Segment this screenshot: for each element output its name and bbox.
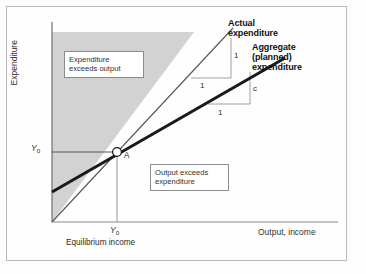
callout-output-exceeds-expenditure: Output exceedsexpenditure — [150, 164, 229, 191]
aggregate-expenditure-label: Aggregate(planned)expenditure — [252, 42, 302, 72]
x-axis-tick-y0-subscript: 0 — [116, 229, 119, 236]
x-axis-tick-y0-letter: Y — [110, 225, 116, 235]
y-axis-tick-y0-letter: Y — [31, 143, 37, 153]
x-axis-title: Output, income — [258, 228, 316, 238]
y-axis-tick-y0-subscript: 0 — [37, 147, 40, 154]
actual-expenditure-label: Actualexpenditure — [228, 18, 278, 38]
y-axis-tick-y0: Y0 — [31, 144, 40, 154]
slope-45-rise-label: 1 — [234, 51, 238, 60]
callout-expenditure-exceeds-output-line2: exceeds output — [69, 64, 121, 73]
x-axis-tick-y0: Y0 — [110, 226, 119, 236]
equilibrium-point-marker — [113, 148, 122, 157]
aggregate-expenditure-label-line2: (planned) — [252, 52, 292, 62]
callout-output-exceeds-expenditure-line2: expenditure — [155, 177, 195, 186]
slope-ae-rise-label: c — [253, 84, 257, 93]
equilibrium-income-caption: Equilibrium income — [66, 238, 135, 247]
callout-expenditure-exceeds-output: Expenditureexceeds output — [64, 51, 144, 78]
callout-output-exceeds-expenditure-line1: Output exceeds — [155, 168, 208, 177]
callout-expenditure-exceeds-output-line1: Expenditure — [69, 55, 110, 64]
slope-ae-run-label: 1 — [218, 108, 222, 117]
actual-expenditure-label-line2: expenditure — [228, 28, 278, 38]
aggregate-expenditure-label-line1: Aggregate — [252, 42, 296, 52]
y-axis-title: Expenditure — [10, 26, 20, 100]
aggregate-expenditure-label-line3: expenditure — [252, 62, 302, 72]
slope-45-run-label: 1 — [200, 81, 204, 90]
equilibrium-point-label: A — [124, 151, 129, 160]
economics-diagram: Expenditure Output, income Y0 Y0 Equilib… — [0, 0, 366, 274]
actual-expenditure-label-line1: Actual — [228, 18, 255, 28]
